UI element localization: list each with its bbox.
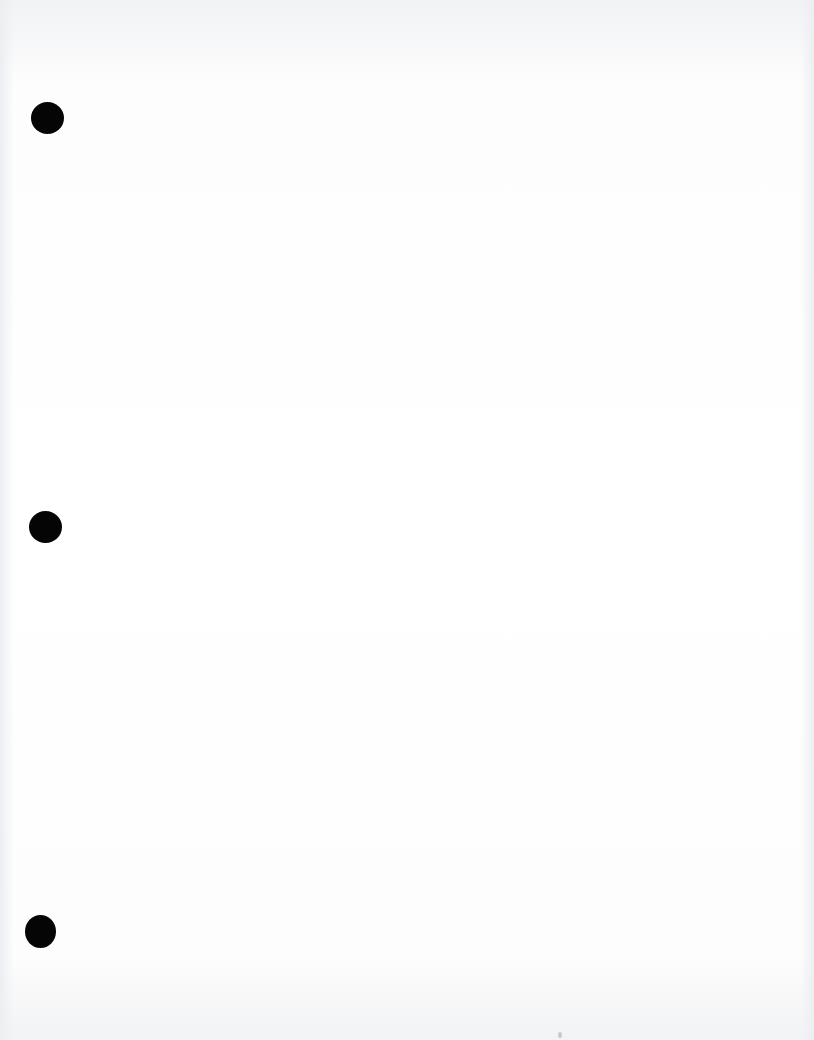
punch-hole-bottom: [25, 915, 56, 948]
blank-page: [0, 0, 814, 1040]
punch-hole-middle: [29, 511, 62, 543]
scan-edge-shadow-right: [800, 0, 814, 1040]
scan-speck: [558, 1032, 562, 1038]
scan-edge-shadow-left: [0, 0, 14, 1040]
punch-hole-top: [31, 102, 64, 134]
